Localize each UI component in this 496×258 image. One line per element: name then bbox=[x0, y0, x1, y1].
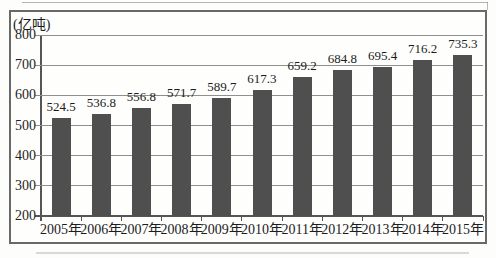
x-axis-tick bbox=[442, 216, 443, 221]
x-axis-tick bbox=[41, 216, 42, 221]
bar bbox=[253, 90, 272, 216]
y-axis-tick-label: 800 bbox=[0, 27, 36, 43]
y-axis-tick-label: 700 bbox=[0, 57, 36, 73]
x-axis-tick bbox=[322, 216, 323, 221]
x-axis-label: 2015年 bbox=[440, 222, 486, 238]
bar bbox=[333, 70, 352, 216]
y-axis-tick-label: 400 bbox=[0, 148, 36, 164]
x-axis-tick bbox=[402, 216, 403, 221]
y-axis-tick-label: 600 bbox=[0, 87, 36, 103]
bar bbox=[132, 108, 151, 216]
gridline bbox=[35, 35, 483, 36]
y-axis-tick-label: 300 bbox=[0, 178, 36, 194]
bar-value-label: 735.3 bbox=[439, 37, 487, 51]
bar bbox=[293, 77, 312, 216]
x-axis-tick bbox=[282, 216, 283, 221]
scan-artifact-top-stub bbox=[487, 2, 488, 10]
scan-artifact-bottom-line bbox=[36, 252, 469, 254]
bar bbox=[373, 67, 392, 216]
x-axis-tick bbox=[241, 216, 242, 221]
y-axis-tick-label: 200 bbox=[0, 208, 36, 224]
scanned-chart-page: (亿吨) 200300400500600700800524.5536.8556.… bbox=[0, 0, 496, 258]
x-axis-tick bbox=[362, 216, 363, 221]
x-axis-tick bbox=[201, 216, 202, 221]
scan-artifact-top-line bbox=[22, 2, 488, 3]
bar-value-label: 617.3 bbox=[238, 72, 286, 86]
bar bbox=[453, 55, 472, 216]
bar bbox=[212, 98, 231, 216]
x-axis-tick bbox=[161, 216, 162, 221]
x-axis-tick bbox=[121, 216, 122, 221]
bar bbox=[92, 114, 111, 216]
y-axis-tick-label: 500 bbox=[0, 118, 36, 134]
x-axis-tick bbox=[483, 216, 484, 221]
plot-area: 200300400500600700800524.5536.8556.8571.… bbox=[41, 35, 483, 216]
x-axis-tick bbox=[81, 216, 82, 221]
y-axis-line bbox=[40, 35, 42, 221]
bar bbox=[52, 118, 71, 216]
bar bbox=[172, 104, 191, 216]
bar bbox=[413, 60, 432, 216]
